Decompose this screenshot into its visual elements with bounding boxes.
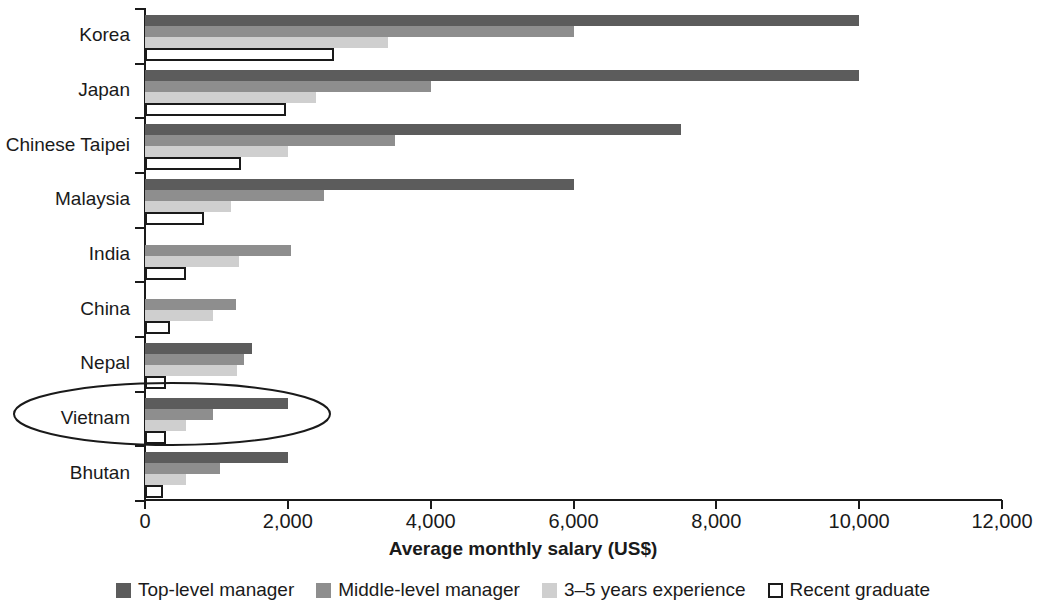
- y-axis-tick: [135, 227, 145, 229]
- bar-vietnam-series-2: [145, 420, 186, 431]
- legend-swatch-icon: [316, 583, 331, 598]
- legend-label: 3–5 years experience: [564, 580, 746, 600]
- bar-nepal-series-3: [145, 376, 166, 389]
- bar-malaysia-series-0: [145, 179, 574, 190]
- x-axis-tick: [430, 500, 432, 509]
- bar-malaysia-series-3: [145, 212, 204, 225]
- bar-vietnam-series-1: [145, 409, 213, 420]
- bar-china-series-2: [145, 310, 213, 321]
- y-axis-label-china: China: [0, 299, 130, 318]
- y-axis-tick: [135, 172, 145, 174]
- legend-item-0[interactable]: Top-level manager: [116, 580, 294, 600]
- bar-chinese-taipei-series-3: [145, 157, 241, 170]
- y-axis-tick: [135, 391, 145, 393]
- bar-chinese-taipei-series-2: [145, 146, 288, 157]
- legend-item-1[interactable]: Middle-level manager: [316, 580, 520, 600]
- y-axis-label-vietnam: Vietnam: [0, 408, 130, 427]
- bar-india-series-2: [145, 256, 239, 267]
- y-axis-tick: [135, 117, 145, 119]
- x-axis-tick: [573, 500, 575, 509]
- bar-japan-series-2: [145, 92, 316, 103]
- y-axis-label-bhutan: Bhutan: [0, 463, 130, 482]
- y-axis-label-india: India: [0, 244, 130, 263]
- x-axis-tick: [287, 500, 289, 509]
- x-axis-tick-label: 6,000: [514, 510, 634, 532]
- bar-chinese-taipei-series-1: [145, 135, 395, 146]
- bar-bhutan-series-0: [145, 452, 288, 463]
- legend-swatch-icon: [542, 583, 557, 598]
- y-axis-tick: [135, 336, 145, 338]
- legend-item-2[interactable]: 3–5 years experience: [542, 580, 746, 600]
- y-axis-label-chinese-taipei: Chinese Taipei: [0, 135, 130, 154]
- y-axis-label-japan: Japan: [0, 80, 130, 99]
- y-axis-tick: [135, 281, 145, 283]
- y-axis-tick: [135, 63, 145, 65]
- y-axis-tick: [135, 8, 145, 10]
- legend-swatch-icon: [768, 583, 783, 598]
- bar-china-series-3: [145, 321, 170, 334]
- bar-korea-series-0: [145, 15, 859, 26]
- bar-chart: KoreaJapanChinese TaipeiMalaysiaIndiaChi…: [0, 0, 1046, 610]
- bar-bhutan-series-1: [145, 463, 220, 474]
- y-axis-label-malaysia: Malaysia: [0, 189, 130, 208]
- legend-label: Top-level manager: [138, 580, 294, 600]
- y-axis-tick: [135, 445, 145, 447]
- x-axis-tick-label: 10,000: [799, 510, 919, 532]
- legend-item-3[interactable]: Recent graduate: [768, 580, 931, 600]
- x-axis-tick-label: 4,000: [371, 510, 491, 532]
- bar-bhutan-series-3: [145, 485, 163, 498]
- legend-label: Recent graduate: [790, 580, 931, 600]
- bar-malaysia-series-1: [145, 190, 324, 201]
- bar-korea-series-1: [145, 26, 574, 37]
- x-axis-title: Average monthly salary (US$): [0, 538, 1046, 560]
- bar-japan-series-3: [145, 103, 286, 116]
- x-axis-tick: [1001, 500, 1003, 509]
- legend-swatch-icon: [116, 583, 131, 598]
- bar-india-series-3: [145, 267, 186, 280]
- bar-korea-series-3: [145, 48, 334, 61]
- bar-vietnam-series-3: [145, 431, 166, 444]
- bar-bhutan-series-2: [145, 474, 186, 485]
- y-axis-label-korea: Korea: [0, 25, 130, 44]
- bar-vietnam-series-0: [145, 398, 288, 409]
- bar-japan-series-0: [145, 70, 859, 81]
- bar-india-series-1: [145, 245, 291, 256]
- plot-area: [145, 8, 1001, 500]
- x-axis-tick: [858, 500, 860, 509]
- bar-korea-series-2: [145, 37, 388, 48]
- bar-japan-series-1: [145, 81, 431, 92]
- x-axis-tick-label: 0: [85, 510, 205, 532]
- bar-nepal-series-0: [145, 343, 252, 354]
- x-axis-tick: [144, 500, 146, 509]
- legend-label: Middle-level manager: [338, 580, 520, 600]
- x-axis-tick-label: 8,000: [656, 510, 776, 532]
- bar-china-series-1: [145, 299, 236, 310]
- chart-legend: Top-level managerMiddle-level manager3–5…: [0, 580, 1046, 600]
- y-axis-label-nepal: Nepal: [0, 353, 130, 372]
- bar-malaysia-series-2: [145, 201, 231, 212]
- bar-nepal-series-2: [145, 365, 237, 376]
- x-axis-tick-label: 2,000: [228, 510, 348, 532]
- bar-chinese-taipei-series-0: [145, 124, 681, 135]
- bar-nepal-series-1: [145, 354, 244, 365]
- x-axis-tick-label: 12,000: [942, 510, 1046, 532]
- x-axis-tick: [715, 500, 717, 509]
